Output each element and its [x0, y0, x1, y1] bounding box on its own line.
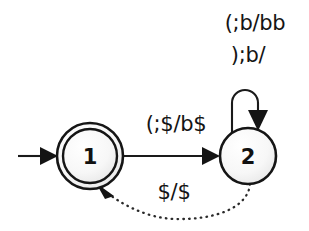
state-machine-diagram: 1 2 (;$/b$ (;b/bb );b/ $/$ [0, 0, 309, 231]
transition-1-to-2-label: (;$/b$ [146, 112, 207, 136]
start-arrow-head [40, 147, 58, 165]
transition-2-self-loop-label-line1: (;b/bb [225, 11, 286, 35]
transition-1-to-2-head [202, 147, 220, 165]
start-arrow [18, 147, 58, 165]
automaton-canvas: 1 2 (;$/b$ (;b/bb );b/ $/$ [0, 0, 309, 231]
transition-2-self-loop-label-line2: );b/ [231, 43, 267, 67]
state-node-1[interactable]: 1 [57, 123, 123, 189]
state-1-label: 1 [83, 145, 98, 169]
state-node-2[interactable]: 2 [220, 128, 276, 184]
transition-1-to-2 [124, 147, 220, 165]
transition-2-to-1-label: $/$ [158, 180, 191, 204]
state-2-label: 2 [241, 145, 256, 169]
